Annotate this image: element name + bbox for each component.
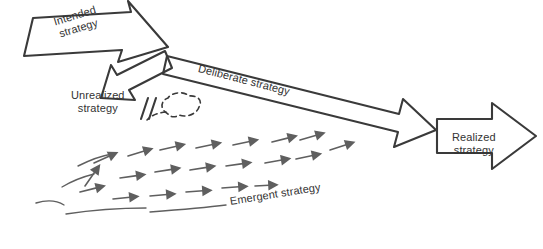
- emergent-arrow: [150, 190, 176, 200]
- emergent-arrow: [79, 182, 105, 196]
- emergent-arrow: [271, 132, 297, 146]
- emergent-arrow: [119, 171, 145, 182]
- strategy-diagram: [0, 0, 543, 249]
- emergent-arrow: [154, 164, 180, 176]
- emergent-arrow: [329, 138, 355, 153]
- emergent-arrow: [189, 162, 215, 174]
- emergent-arrow: [232, 136, 258, 149]
- emergent-arrow: [225, 159, 251, 170]
- emergent-arrow: [186, 186, 211, 196]
- label-unrealized-strategy: Unrealized strategy: [71, 89, 125, 115]
- emergent-strategy-trails: [36, 154, 226, 214]
- emergent-arrow: [299, 129, 325, 144]
- discontinuity-mark-1: [141, 98, 148, 119]
- unrealized-cloud: [162, 93, 200, 117]
- emergent-arrow: [222, 182, 247, 192]
- emergent-arrow: [264, 155, 290, 167]
- emergent-arrow: [113, 192, 139, 203]
- emergent-arrow: [195, 139, 221, 152]
- emergent-arrow: [127, 145, 153, 160]
- diagram-canvas: Intended strategy Unrealized strategy De…: [0, 0, 543, 249]
- emergent-arrow: [159, 140, 185, 153]
- label-realized-strategy: Realized strategy: [452, 131, 496, 157]
- emergent-arrow: [295, 150, 321, 163]
